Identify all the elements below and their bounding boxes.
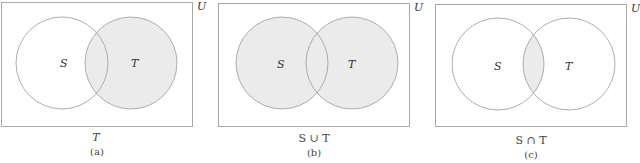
expression-label: T xyxy=(92,131,101,144)
expression-label: S ∩ T xyxy=(515,134,547,147)
venn-diagram-figure: U S T T (a) U S T S ∪ T (b) U S T S ∩ T … xyxy=(0,0,640,163)
universe-label: U xyxy=(631,2,640,15)
panel-caption: (b) xyxy=(307,147,321,158)
expression-label: S ∪ T xyxy=(298,132,330,145)
set-s-label: S xyxy=(277,58,285,71)
universe-label: U xyxy=(414,1,424,14)
panel-a: U S T T (a) xyxy=(2,0,208,157)
panel-c: U S T S ∩ T (c) xyxy=(436,2,640,160)
panel-caption: (a) xyxy=(90,146,104,157)
set-s-label: S xyxy=(60,57,68,70)
panel-b: U S T S ∪ T (b) xyxy=(219,1,425,158)
universe-label: U xyxy=(197,0,207,13)
panel-caption: (c) xyxy=(524,149,538,160)
set-s-label: S xyxy=(494,60,502,73)
